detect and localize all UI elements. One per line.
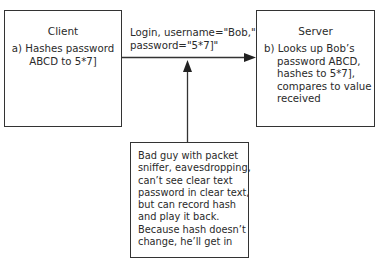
attacker-line: and play it back. (138, 211, 248, 223)
attacker-line: Because hash doesn’t (138, 224, 248, 236)
server-title: Server (257, 25, 374, 37)
client-title: Client (5, 25, 121, 37)
client-box: Client a) Hashes password ABCD to 5*7] (4, 10, 122, 127)
arrowhead-up-icon (183, 60, 192, 72)
server-line: compares to value (264, 81, 374, 94)
server-description: b) Looks up Bob’s password ABCD, hashes … (257, 43, 374, 106)
server-line: password ABCD, (264, 56, 374, 69)
server-box: Server b) Looks up Bob’s password ABCD, … (256, 10, 375, 127)
arrowhead-right-icon (244, 53, 256, 62)
client-description: a) Hashes password ABCD to 5*7] (5, 43, 121, 68)
client-line: ABCD to 5*7] (5, 56, 121, 69)
attacker-line: can’t see clear text (138, 175, 248, 187)
attacker-line: password in clear text, (138, 187, 248, 199)
message-line: Login, username="Bob," (130, 26, 256, 39)
attacker-line: but can record hash (138, 199, 248, 211)
message-line: password="5*7]" (130, 39, 256, 52)
attacker-line: Bad guy with packet (138, 150, 248, 162)
attacker-description: Bad guy with packet sniffer, eavesdroppi… (131, 150, 248, 248)
server-line: b) Looks up Bob’s (264, 43, 374, 56)
client-line: a) Hashes password (5, 43, 121, 56)
server-line: hashes to 5*7], (264, 68, 374, 81)
attacker-line: change, he’ll get in (138, 236, 248, 248)
attacker-line: sniffer, eavesdropping, (138, 162, 248, 174)
server-line: received (264, 93, 374, 106)
attacker-box: Bad guy with packet sniffer, eavesdroppi… (130, 142, 249, 258)
login-message-label: Login, username="Bob," password="5*7]" (130, 26, 256, 52)
